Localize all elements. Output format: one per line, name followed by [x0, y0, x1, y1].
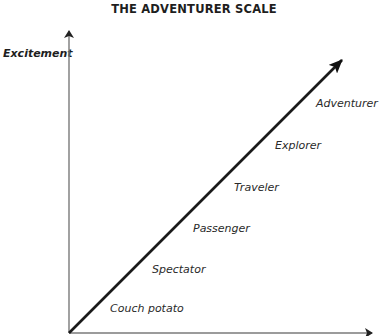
stage-label-passenger: Passenger — [193, 222, 250, 235]
adventure-scale-arrow — [69, 60, 342, 333]
stage-label-spectator: Spectator — [152, 263, 205, 276]
stage-label-couch-potato: Couch potato — [110, 302, 184, 315]
diagram-canvas — [0, 0, 388, 336]
stage-label-traveler: Traveler — [234, 181, 279, 194]
stage-label-explorer: Explorer — [275, 139, 321, 152]
stage-label-adventurer: Adventurer — [316, 97, 378, 110]
